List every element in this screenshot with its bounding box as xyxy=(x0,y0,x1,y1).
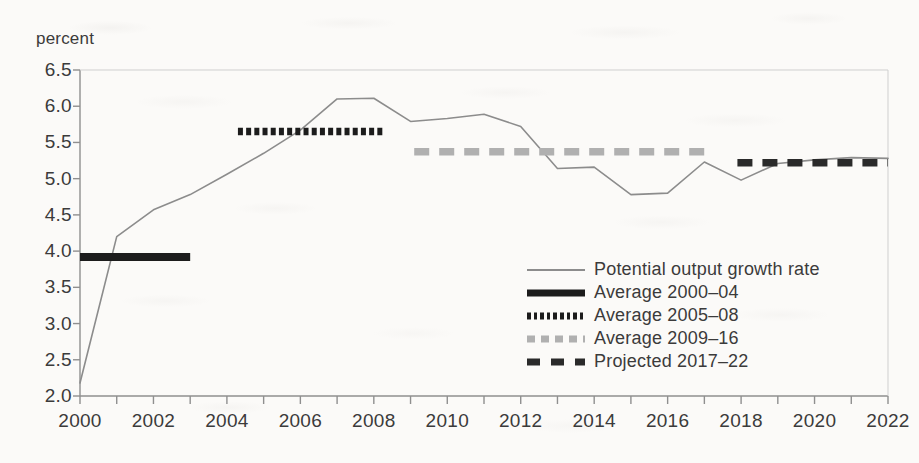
plot-canvas xyxy=(0,0,919,463)
legend-item-2[interactable]: Average 2005–08 xyxy=(527,304,820,327)
legend-label: Projected 2017–22 xyxy=(594,351,749,372)
legend-swatch xyxy=(527,312,585,319)
legend-swatch xyxy=(527,269,585,271)
chart-legend: Potential output growth rateAverage 2000… xyxy=(527,258,820,373)
legend-label: Average 2000–04 xyxy=(594,282,739,303)
legend-label: Average 2005–08 xyxy=(594,305,739,326)
legend-swatch xyxy=(527,358,585,365)
legend-item-4[interactable]: Projected 2017–22 xyxy=(527,350,820,373)
chart-figure: percent 6.56.05.55.04.54.03.53.02.52.0 2… xyxy=(0,0,919,463)
legend-item-1[interactable]: Average 2000–04 xyxy=(527,281,820,304)
legend-swatch xyxy=(527,335,585,342)
legend-item-0[interactable]: Potential output growth rate xyxy=(527,258,820,281)
legend-item-3[interactable]: Average 2009–16 xyxy=(527,327,820,350)
legend-label: Potential output growth rate xyxy=(594,259,820,280)
legend-swatch xyxy=(527,289,585,296)
legend-label: Average 2009–16 xyxy=(594,328,739,349)
